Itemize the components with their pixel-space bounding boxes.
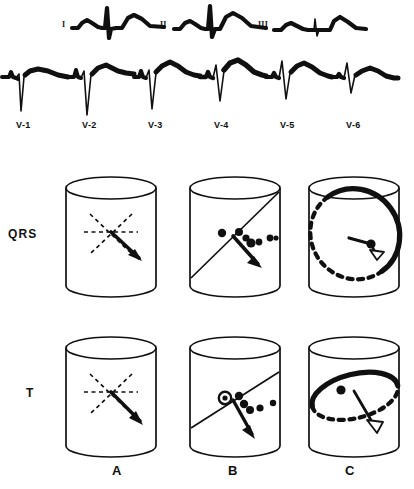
col-label-a: A bbox=[112, 463, 122, 478]
cylinder-qrs-b bbox=[186, 170, 284, 304]
ecg-trace-lead-ii bbox=[174, 4, 266, 48]
ecg-trace-v2 bbox=[68, 57, 134, 119]
ecg-trace-lead-i bbox=[72, 4, 164, 48]
prec-label-v3: V-3 bbox=[148, 121, 163, 130]
prec-label-v4: V-4 bbox=[214, 121, 229, 130]
cylinder-t-c bbox=[305, 330, 403, 464]
prec-label-v2: V-2 bbox=[82, 121, 97, 130]
ecg-trace-v6 bbox=[332, 57, 398, 119]
ecg-trace-v1 bbox=[2, 57, 68, 119]
ecg-trace-v3 bbox=[134, 57, 200, 119]
precordial-lead-row: V-1 V-2 V-3 V-4 bbox=[0, 55, 414, 140]
prec-label-v6: V-6 bbox=[346, 121, 361, 130]
cylinder-t-b bbox=[186, 330, 284, 464]
lead-label-iii: III bbox=[258, 21, 268, 29]
lead-label-ii: II bbox=[160, 21, 167, 29]
prec-label-v5: V-5 bbox=[280, 121, 295, 130]
ecg-trace-lead-iii bbox=[274, 4, 366, 48]
cylinder-qrs-a bbox=[62, 170, 160, 304]
ecg-trace-v4 bbox=[200, 57, 266, 119]
limb-lead-row: I II III bbox=[0, 0, 414, 52]
prec-label-v1: V-1 bbox=[16, 121, 31, 130]
cylinder-t-a bbox=[62, 330, 160, 464]
row-label-qrs: QRS bbox=[8, 227, 37, 241]
col-label-c: C bbox=[345, 463, 355, 478]
ecg-trace-v5 bbox=[266, 57, 332, 119]
row-label-t: T bbox=[26, 386, 34, 400]
ecg-vector-figure: I II III bbox=[0, 0, 414, 489]
col-label-b: B bbox=[228, 463, 238, 478]
cylinder-qrs-c bbox=[305, 170, 403, 304]
lead-label-i: I bbox=[62, 21, 65, 29]
